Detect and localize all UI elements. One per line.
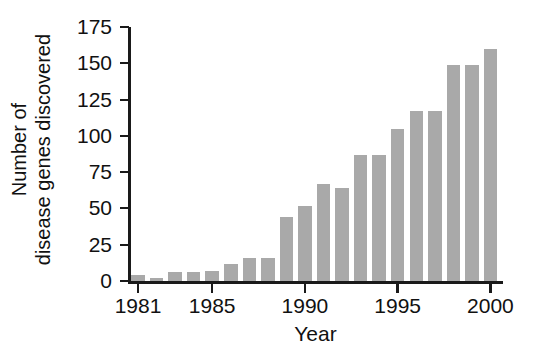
bar-1993: [354, 155, 368, 281]
bar-1986: [224, 264, 238, 281]
y-tick-label: 125: [42, 89, 112, 110]
y-tick-label: 100: [42, 125, 112, 146]
bar-1998: [447, 65, 461, 281]
bar-2000: [484, 49, 498, 281]
bar-1994: [372, 155, 386, 281]
y-tick-label: 150: [42, 52, 112, 73]
x-tick-label: 1985: [172, 295, 252, 316]
y-tick-label: 175: [42, 16, 112, 37]
chart-figure: Number of disease genes discovered 02550…: [0, 0, 541, 361]
bar-1982: [150, 278, 164, 281]
bar-1987: [243, 258, 257, 281]
bar-1981: [131, 275, 145, 281]
y-tick-mark: [120, 99, 129, 101]
bar-1988: [261, 258, 275, 281]
bar-1999: [465, 65, 479, 281]
x-tick-mark: [396, 283, 399, 293]
bar-1983: [168, 272, 182, 281]
x-tick-label: 1981: [98, 295, 178, 316]
bar-1995: [391, 129, 405, 281]
x-axis-title: Year: [128, 322, 503, 346]
bar-1990: [298, 206, 312, 281]
y-tick-label: 0: [42, 270, 112, 291]
plot-area: 0255075100125150175 19811985199019952000: [0, 0, 541, 361]
y-tick-mark: [120, 280, 129, 282]
x-tick-mark: [211, 283, 214, 293]
bar-1996: [410, 111, 424, 281]
y-tick-label: 50: [42, 197, 112, 218]
y-tick-mark: [120, 26, 129, 28]
x-tick-mark: [304, 283, 307, 293]
bar-1989: [280, 217, 294, 281]
y-tick-label: 25: [42, 234, 112, 255]
y-tick-mark: [120, 62, 129, 64]
x-tick-label: 1990: [265, 295, 345, 316]
x-tick-mark: [489, 283, 492, 293]
y-tick-mark: [120, 244, 129, 246]
x-tick-mark: [137, 283, 140, 293]
bar-1991: [317, 184, 331, 281]
y-tick-mark: [120, 135, 129, 137]
y-tick-mark: [120, 171, 129, 173]
y-tick-mark: [120, 207, 129, 209]
bar-1992: [335, 188, 349, 281]
y-tick-label: 75: [42, 161, 112, 182]
x-tick-label: 1995: [358, 295, 438, 316]
bar-1984: [187, 272, 201, 281]
x-tick-label: 2000: [450, 295, 530, 316]
bar-1997: [428, 111, 442, 281]
bar-1985: [205, 271, 219, 281]
